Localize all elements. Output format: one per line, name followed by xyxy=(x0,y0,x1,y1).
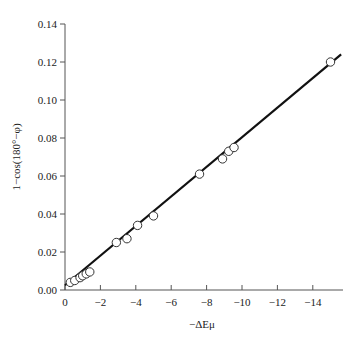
fit-line xyxy=(65,54,341,285)
fit-line-segment xyxy=(65,54,341,285)
y-axis-label: 1−cos(180°−φ) xyxy=(10,123,23,190)
x-tick-label: −10 xyxy=(233,296,251,308)
y-tick-label: 0.04 xyxy=(38,208,58,220)
x-tick-label: −8 xyxy=(201,296,213,308)
data-point xyxy=(112,238,120,246)
axes: 0.000.020.040.060.080.100.120.140−2−4−6−… xyxy=(38,18,343,308)
y-tick-label: 0.06 xyxy=(38,170,58,182)
y-tick-label: 0.00 xyxy=(38,284,58,296)
x-axis-label: −ΔEμ xyxy=(189,318,215,330)
data-point xyxy=(149,212,157,220)
y-tick-label: 0.08 xyxy=(38,132,58,144)
y-tick-label: 0.10 xyxy=(38,94,58,106)
x-tick-label: −2 xyxy=(95,296,107,308)
scatter-chart: 0.000.020.040.060.080.100.120.140−2−4−6−… xyxy=(0,0,358,344)
y-tick-label: 0.02 xyxy=(38,246,57,258)
data-point xyxy=(133,221,141,229)
data-point xyxy=(123,235,131,243)
y-tick-label: 0.14 xyxy=(38,18,58,30)
data-point xyxy=(218,155,226,163)
data-point xyxy=(230,143,238,151)
data-point xyxy=(195,170,203,178)
data-point xyxy=(326,58,334,66)
data-point xyxy=(86,268,94,276)
x-tick-label: −4 xyxy=(130,296,142,308)
x-tick-label: −12 xyxy=(269,296,286,308)
x-tick-label: 0 xyxy=(62,296,68,308)
x-tick-label: −14 xyxy=(304,296,322,308)
y-tick-label: 0.12 xyxy=(38,56,57,68)
x-tick-label: −6 xyxy=(165,296,177,308)
